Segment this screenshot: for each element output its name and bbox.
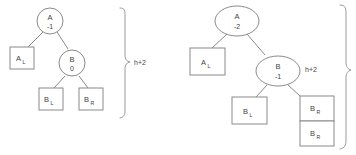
left-tree-box-b-left-label: B <box>44 95 49 104</box>
right-tree-height-brace <box>340 5 351 149</box>
left-tree-node-a-key: A <box>47 13 52 22</box>
right-tree-box-b-right-top-subscript: R <box>317 109 321 115</box>
right-tree-edge-b-to-bright <box>288 85 300 96</box>
right-tree-box-a-left-label: A <box>201 58 206 67</box>
left-tree-height-brace <box>120 8 130 118</box>
right-tree-box-b-left[interactable] <box>232 97 267 124</box>
right-tree-edge-b-to-bleft <box>256 85 267 97</box>
right-tree-group: A L B L B R B R A -2 B -1 h+2 <box>190 5 351 149</box>
right-tree-box-b-right-bottom-label: B <box>310 129 315 138</box>
right-tree-box-b-right-bottom-subscript: R <box>317 134 321 140</box>
right-tree-node-a[interactable] <box>215 6 259 36</box>
left-tree-node-b-balance: 0 <box>70 65 74 72</box>
left-tree-group: A L B L B R A -1 B 0 h+2 <box>10 8 146 118</box>
right-tree-node-b-balance: -1 <box>275 73 281 80</box>
right-tree-node-a-balance: -2 <box>234 23 240 30</box>
right-tree-edge-root-to-b <box>247 34 265 55</box>
left-tree-node-a-balance: -1 <box>47 23 53 30</box>
left-tree-box-a-left-label: A <box>16 54 21 63</box>
left-tree-edge-b-to-bleft <box>54 76 65 88</box>
right-tree-box-b-right-top-label: B <box>310 104 315 113</box>
right-tree-box-b-left-subscript: L <box>250 112 253 118</box>
right-tree-brace-label: h+2 <box>305 66 317 73</box>
left-tree-edge-root-to-b <box>57 32 68 49</box>
diagram-canvas: A L B L B R A -1 B 0 h+2 <box>0 0 356 155</box>
right-tree-edge-root-to-aleft <box>212 34 227 48</box>
left-tree-box-b-left-subscript: L <box>51 100 54 106</box>
right-tree-box-b-left-label: B <box>243 107 248 116</box>
right-tree-node-b-key: B <box>275 62 280 71</box>
left-tree-edge-b-to-bright <box>79 76 88 88</box>
left-tree-box-b-right-label: B <box>84 95 89 104</box>
left-tree-node-b-key: B <box>69 55 74 64</box>
left-tree-brace-label: h+2 <box>134 59 146 66</box>
left-tree-edge-root-to-aleft <box>28 32 43 47</box>
left-tree-box-a-left-subscript: L <box>23 59 26 65</box>
left-tree-box-b-right-subscript: R <box>91 100 95 106</box>
tree-diagram-svg: A L B L B R A -1 B 0 h+2 <box>0 0 356 155</box>
right-tree-node-a-key: A <box>234 12 239 21</box>
right-tree-box-a-left-subscript: L <box>208 63 211 69</box>
right-tree-box-a-left[interactable] <box>190 48 225 75</box>
right-tree-node-b[interactable] <box>256 56 300 86</box>
